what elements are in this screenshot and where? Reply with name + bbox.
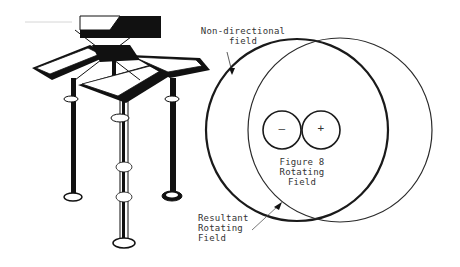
non-directional-label: Non-directional field [196,26,290,46]
antenna-array-illustration [25,16,210,248]
non-directional-field-circle [206,39,388,221]
resultant-label: Resultant Rotating Field [198,213,258,243]
antenna-field-diagram: Non-directional field – + Figure 8 Rotat… [0,0,460,267]
figure8-label: Figure 8 Rotating Field [272,157,332,187]
plus-sign: + [315,124,327,134]
minus-sign: – [276,124,288,134]
